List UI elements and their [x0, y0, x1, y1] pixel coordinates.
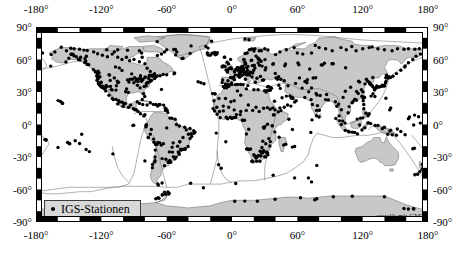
land-tasmania — [390, 169, 393, 171]
station-marker — [154, 103, 157, 106]
axis-tick-label: -120° — [89, 230, 114, 241]
station-marker — [376, 124, 379, 127]
station-marker — [386, 133, 389, 136]
axis-tick-label: 60° — [290, 4, 305, 15]
station-marker — [309, 131, 312, 134]
station-marker — [181, 136, 184, 139]
station-marker — [144, 75, 147, 78]
station-marker — [254, 106, 257, 109]
station-marker — [259, 75, 262, 78]
station-marker — [215, 131, 218, 134]
station-marker — [293, 176, 296, 179]
station-marker — [49, 64, 52, 67]
station-marker — [264, 66, 267, 69]
station-marker — [388, 129, 391, 132]
station-marker — [233, 99, 236, 102]
station-marker — [143, 159, 146, 162]
station-marker — [88, 150, 91, 153]
station-marker — [273, 108, 276, 111]
station-marker — [369, 94, 372, 97]
station-marker — [142, 114, 145, 117]
station-marker — [360, 128, 363, 131]
station-marker — [175, 50, 178, 53]
station-marker — [262, 107, 265, 110]
station-marker — [114, 88, 117, 91]
station-marker — [263, 58, 266, 61]
station-marker — [174, 53, 177, 56]
station-marker — [247, 128, 250, 131]
station-marker — [344, 66, 347, 69]
station-marker — [362, 99, 365, 102]
station-marker — [354, 49, 357, 52]
station-marker — [356, 117, 359, 120]
station-marker — [229, 66, 232, 69]
station-marker — [152, 137, 155, 140]
station-marker — [334, 117, 337, 120]
axis-tick-label: 180° — [418, 4, 439, 15]
station-marker — [239, 94, 242, 97]
station-marker — [262, 126, 265, 129]
station-marker — [268, 144, 271, 147]
station-marker — [160, 157, 163, 160]
station-marker — [65, 49, 68, 52]
station-marker — [86, 49, 89, 52]
station-marker — [215, 113, 218, 116]
station-marker — [150, 128, 153, 131]
station-marker — [337, 114, 340, 117]
station-marker — [383, 84, 386, 87]
station-marker — [143, 95, 146, 98]
station-marker — [373, 95, 376, 98]
axis-tick-label: 0° — [22, 119, 32, 130]
station-marker — [247, 38, 250, 41]
axis-tick-label: 0° — [227, 4, 237, 15]
station-marker — [260, 49, 263, 52]
station-marker — [363, 126, 366, 129]
station-marker — [164, 158, 167, 161]
station-marker — [235, 113, 238, 116]
station-marker — [296, 51, 299, 54]
station-marker — [233, 78, 236, 81]
axis-tick-label: -180° — [24, 4, 49, 15]
station-marker — [44, 138, 47, 141]
station-marker — [61, 102, 64, 105]
station-marker — [39, 137, 42, 140]
station-marker — [166, 111, 169, 114]
axis-tick-label: 180° — [418, 230, 439, 241]
station-marker — [252, 88, 255, 91]
station-marker — [315, 93, 318, 96]
station-marker — [37, 48, 40, 51]
station-marker — [243, 52, 246, 55]
station-marker — [297, 63, 300, 66]
station-marker — [117, 81, 120, 84]
station-marker — [170, 146, 173, 149]
station-marker — [125, 87, 128, 90]
station-marker — [243, 119, 246, 122]
station-marker — [113, 76, 116, 79]
station-marker — [156, 196, 159, 199]
station-marker — [424, 53, 427, 56]
axis-tick-label: -60° — [13, 184, 32, 195]
station-marker — [108, 73, 111, 76]
station-marker — [351, 130, 354, 133]
axis-tick-label: 30° — [17, 87, 32, 98]
station-marker — [253, 66, 256, 69]
station-marker — [221, 65, 224, 68]
station-marker — [165, 48, 168, 51]
station-marker — [274, 53, 277, 56]
station-marker — [412, 207, 415, 210]
station-marker — [176, 145, 179, 148]
station-marker — [271, 124, 274, 127]
axis-tick-label: 90° — [433, 22, 448, 33]
station-marker — [233, 108, 236, 111]
station-marker — [245, 132, 248, 135]
station-marker — [160, 52, 163, 55]
station-marker — [164, 193, 167, 196]
axis-tick-label: 30° — [433, 87, 448, 98]
station-marker — [259, 150, 262, 153]
station-marker — [202, 186, 205, 189]
station-marker — [411, 58, 414, 61]
station-marker — [180, 57, 183, 60]
station-marker — [403, 64, 406, 67]
station-marker — [107, 94, 110, 97]
station-marker — [391, 133, 394, 136]
